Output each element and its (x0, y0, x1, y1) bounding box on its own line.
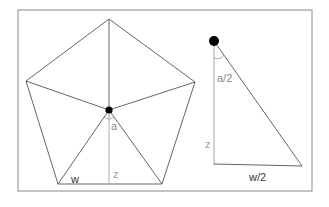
triangle-base-w2 (214, 164, 302, 166)
triangle-hypotenuse (214, 41, 302, 166)
pentagon-outline (26, 19, 195, 184)
diagram-canvas: a z w a/2 z w/2 (0, 0, 329, 207)
label-w-half: w/2 (248, 171, 266, 183)
apex-dot (209, 36, 219, 46)
label-z-left: z (113, 168, 119, 180)
label-w: w (70, 173, 79, 185)
label-a-half: a/2 (217, 72, 232, 84)
center-dot (105, 106, 112, 113)
angle-arc-a2 (214, 55, 224, 59)
label-z-right: z (205, 138, 211, 150)
label-a: a (111, 120, 118, 132)
frame (18, 10, 312, 191)
